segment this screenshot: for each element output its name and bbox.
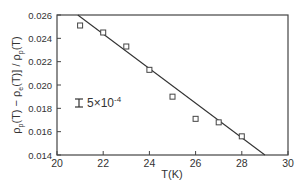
x-axis-ticks: 202224262830 (51, 151, 294, 169)
x-tick-label: 26 (190, 157, 202, 169)
svg-text:5×10-4: 5×10-4 (87, 95, 122, 110)
data-point-marker (239, 134, 244, 139)
y-tick-label: 0.016 (28, 126, 52, 137)
y-tick-label: 0.026 (28, 10, 52, 21)
x-tick-label: 30 (282, 157, 294, 169)
y-axis-label: ρp(T) − ρe(T)] / ρp(T) (10, 36, 25, 133)
data-point-marker (170, 94, 175, 99)
x-tick-label: 24 (144, 157, 156, 169)
data-points (78, 23, 245, 139)
svg-text:ρp(T) − ρe(T)] / ρp(T): ρp(T) − ρe(T)] / ρp(T) (10, 36, 25, 133)
y-tick-label: 0.024 (28, 33, 52, 44)
y-tick-label: 0.014 (28, 150, 52, 161)
chart: 202224262830 0.0140.0160.0180.0200.0220.… (0, 0, 305, 191)
error-bar-icon (75, 99, 83, 107)
data-point-marker (78, 23, 83, 28)
y-tick-label: 0.020 (28, 80, 52, 91)
data-point-marker (147, 67, 152, 72)
fit-line (78, 15, 265, 155)
x-axis-label: T(K) (161, 168, 182, 180)
data-point-marker (193, 116, 198, 121)
x-tick-label: 20 (51, 157, 63, 169)
data-point-marker (101, 30, 106, 35)
x-tick-label: 28 (236, 157, 248, 169)
data-point-marker (216, 120, 221, 125)
data-point-marker (124, 44, 129, 49)
y-tick-label: 0.022 (28, 56, 52, 67)
plot-frame (57, 15, 288, 155)
y-axis-ticks: 0.0140.0160.0180.0200.0220.0240.026 (28, 10, 61, 161)
error-bar-annotation: 5×10-4 (75, 95, 122, 110)
x-tick-label: 22 (97, 157, 109, 169)
y-tick-label: 0.018 (28, 103, 52, 114)
